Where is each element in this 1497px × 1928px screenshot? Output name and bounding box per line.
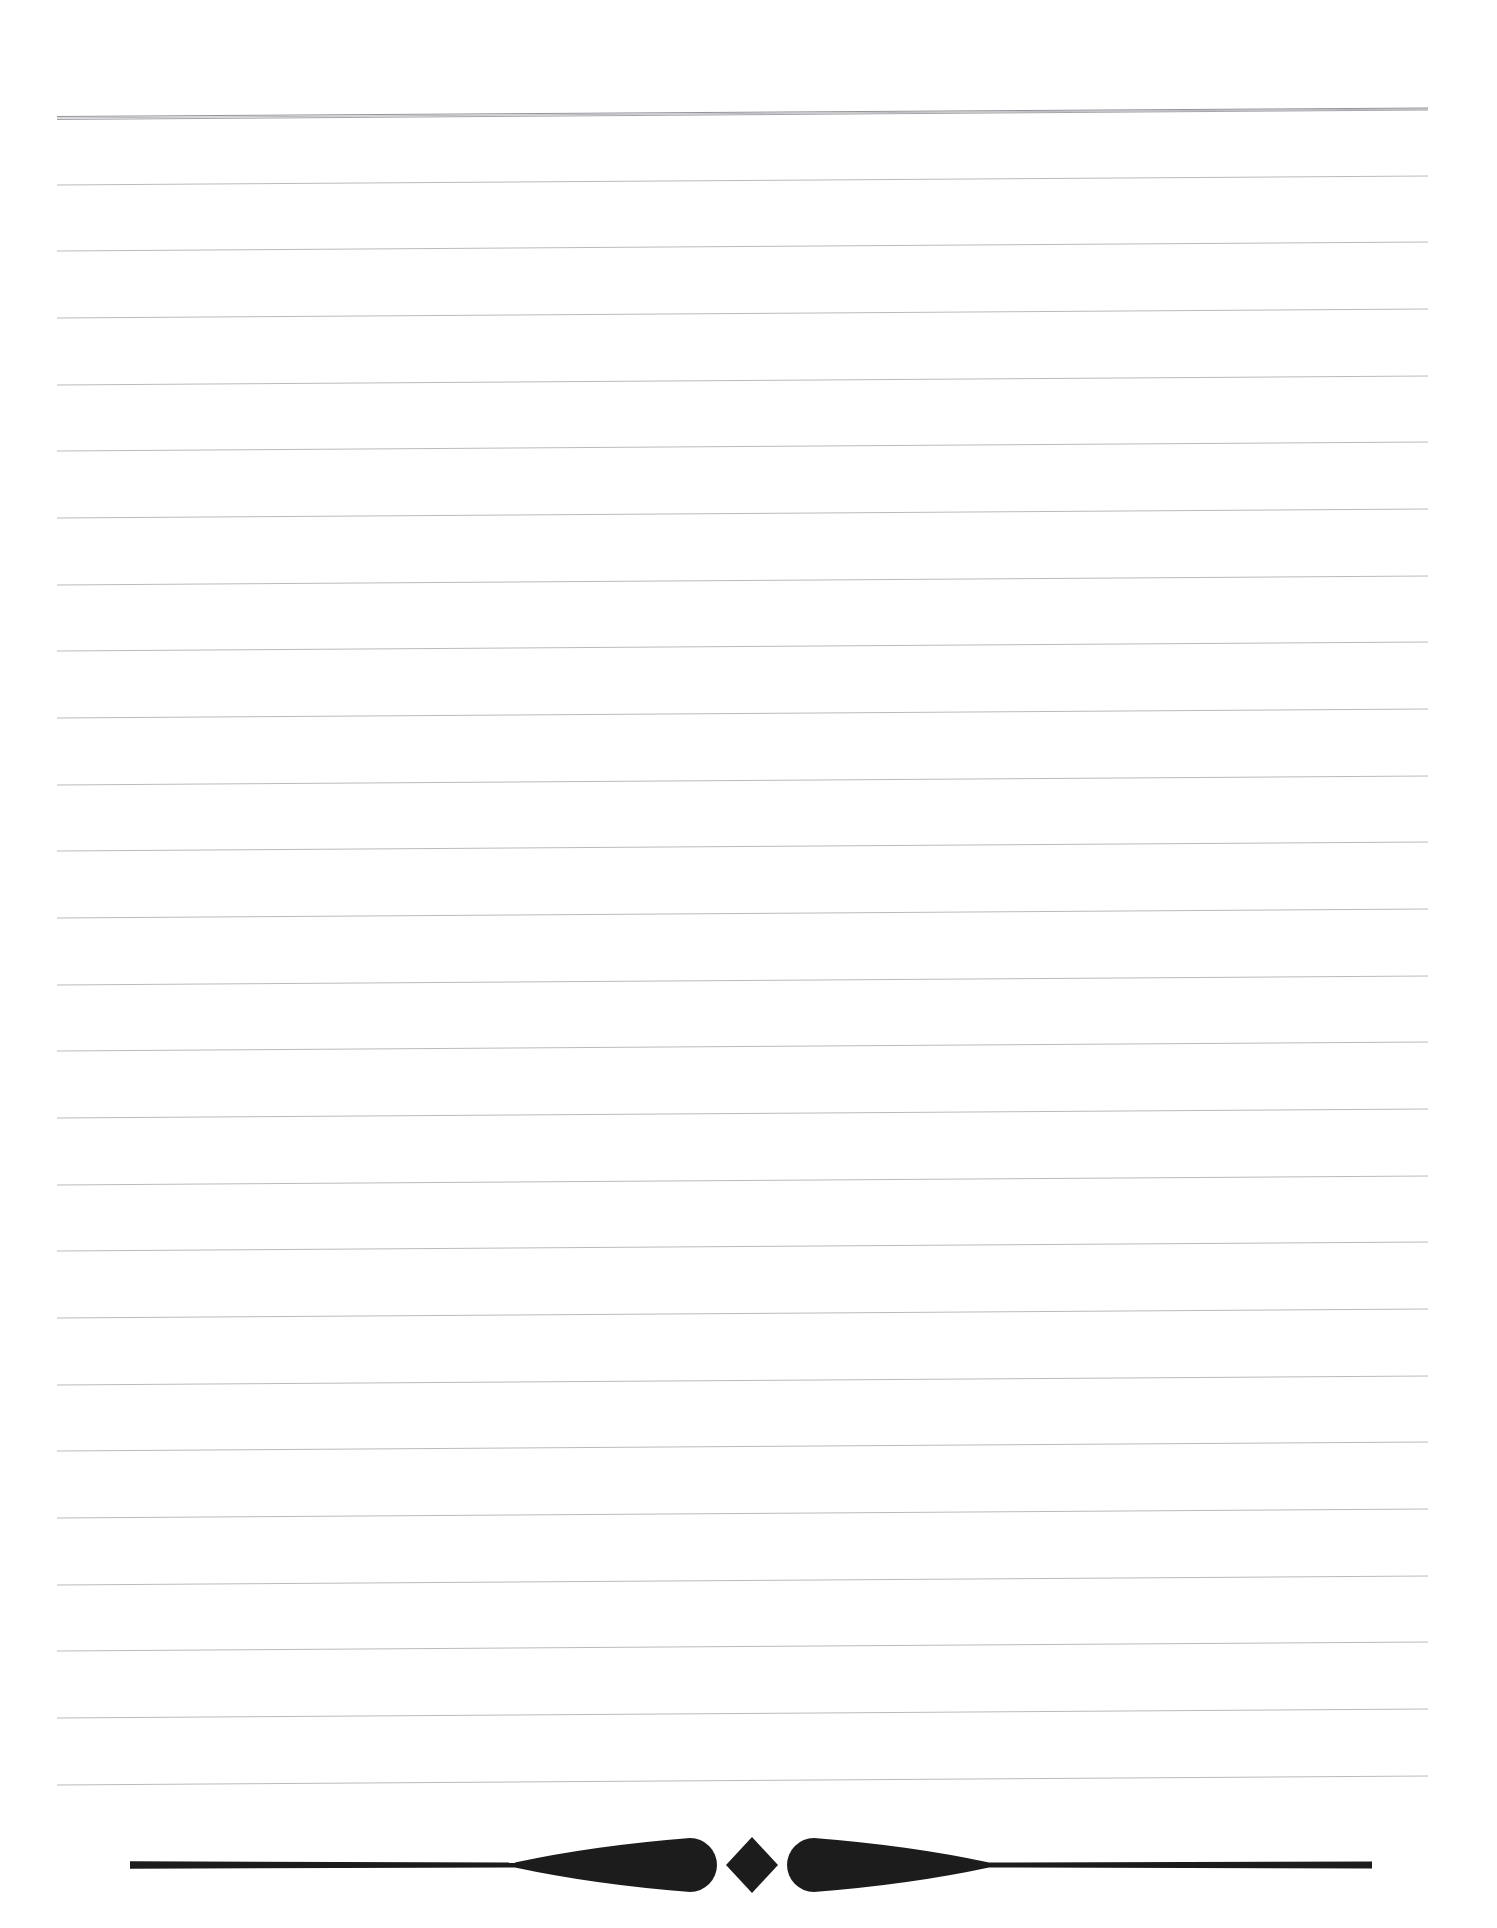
ornament-teardrop-left bbox=[515, 1838, 717, 1892]
ornament-rule-right bbox=[989, 1862, 1372, 1869]
notebook-page: Blank Ruled Notebook Page bbox=[0, 0, 1497, 1928]
ornament-rule-left bbox=[130, 1861, 515, 1868]
ornament-teardrop-right bbox=[787, 1838, 989, 1892]
divider-ornament-svg bbox=[0, 0, 1497, 1928]
ornament-diamond bbox=[726, 1837, 778, 1893]
divider-ornament-layer bbox=[0, 0, 1497, 1928]
